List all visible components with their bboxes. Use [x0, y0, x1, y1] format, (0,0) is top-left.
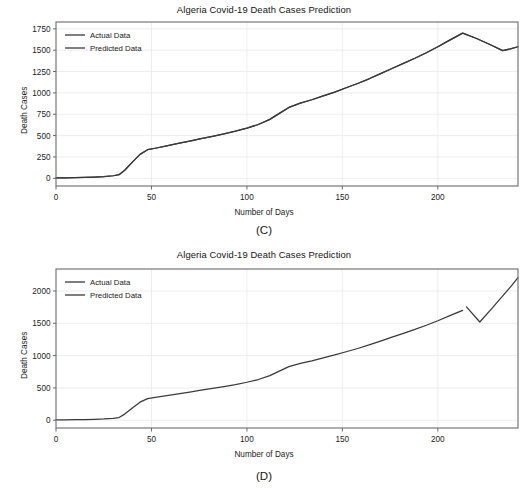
- y-axis-label-c: Death Cases: [20, 87, 29, 134]
- y-tick-label: 750: [37, 110, 51, 119]
- y-tick-label: 500: [37, 132, 51, 141]
- x-tick-label: 200: [431, 193, 445, 202]
- x-tick-label: 200: [431, 435, 445, 444]
- y-tick-label: 2000: [32, 287, 51, 296]
- legend-label-actual: Actual Data: [90, 278, 131, 287]
- legend-label-predicted: Predicted Data: [90, 44, 142, 53]
- legend-label-actual: Actual Data: [90, 31, 131, 40]
- x-axis-label-c: Number of Days: [0, 208, 528, 217]
- y-tick-label: 1250: [32, 68, 51, 77]
- x-tick-label: 150: [336, 193, 350, 202]
- x-tick-label: 50: [147, 193, 157, 202]
- y-tick-label: 0: [46, 174, 51, 183]
- y-tick-label: 250: [37, 153, 51, 162]
- y-tick-label: 1000: [32, 89, 51, 98]
- y-tick-label: 1500: [32, 319, 51, 328]
- chart-panel-d: Algeria Covid-19 Death Cases Prediction …: [0, 245, 528, 493]
- y-tick-label: 1000: [32, 352, 51, 361]
- y-axis-label-d: Death Cases: [20, 331, 29, 378]
- plot-area-c: 02505007501000125015001750050100150200Ac…: [0, 0, 528, 230]
- x-tick-label: 150: [336, 435, 350, 444]
- figure-page: Algeria Covid-19 Death Cases Prediction …: [0, 0, 528, 493]
- line-chart-c: 02505007501000125015001750050100150200Ac…: [0, 0, 528, 230]
- y-tick-label: 0: [46, 416, 51, 425]
- y-tick-label: 1500: [32, 46, 51, 55]
- panel-caption-d: (D): [0, 470, 528, 482]
- chart-panel-c: Algeria Covid-19 Death Cases Prediction …: [0, 0, 528, 248]
- line-chart-d: 0500100015002000050100150200Actual DataP…: [0, 245, 528, 475]
- x-tick-label: 100: [240, 193, 254, 202]
- x-tick-label: 0: [54, 435, 59, 444]
- y-tick-label: 1750: [32, 25, 51, 34]
- x-tick-label: 0: [54, 193, 59, 202]
- y-tick-label: 500: [37, 384, 51, 393]
- legend-label-predicted: Predicted Data: [90, 291, 142, 300]
- plot-area-d: 0500100015002000050100150200Actual DataP…: [0, 245, 528, 475]
- x-axis-label-d: Number of Days: [0, 450, 528, 459]
- x-tick-label: 100: [240, 435, 254, 444]
- panel-caption-c: (C): [0, 224, 528, 236]
- x-tick-label: 50: [147, 435, 157, 444]
